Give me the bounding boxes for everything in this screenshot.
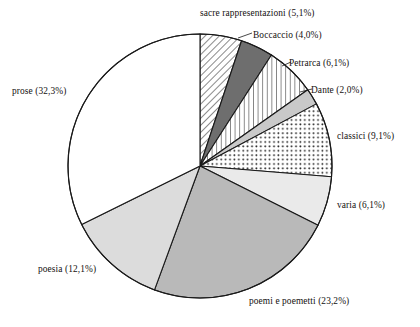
slice-label-petrarca: Petrarca (6,1%) <box>289 58 349 69</box>
slice-label-dante: Dante (2,0%) <box>311 85 363 96</box>
slice-label-varia: varia (6,1%) <box>337 200 385 211</box>
pie-chart-canvas <box>0 0 420 327</box>
leader-line <box>238 33 252 38</box>
slice-label-poesia: poesia (12,1%) <box>38 264 96 275</box>
slice-label-poemi-e-poemetti: poemi e poemetti (23,2%) <box>249 296 349 307</box>
pie-chart: sacre rappresentazioni (5,1%) Boccaccio … <box>0 0 420 327</box>
slice-label-boccaccio: Boccaccio (4,0%) <box>253 30 322 41</box>
pie-slices-group <box>68 34 332 298</box>
slice-label-sacre-rappresentazioni: sacre rappresentazioni (5,1%) <box>200 8 315 19</box>
slice-label-prose: prose (32,3%) <box>12 86 66 97</box>
slice-label-classici: classici (9,1%) <box>337 131 394 142</box>
